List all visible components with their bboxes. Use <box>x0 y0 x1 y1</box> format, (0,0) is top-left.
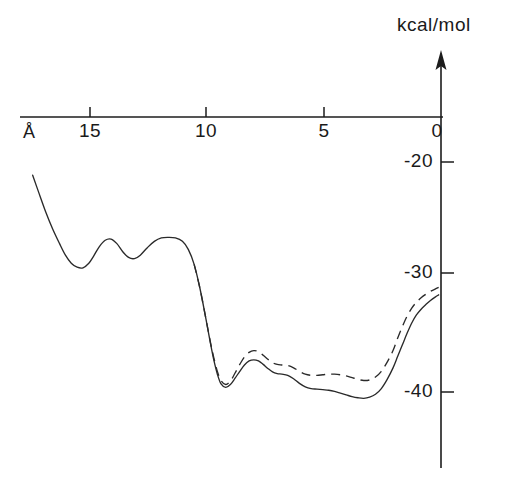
y-tick-label-minus40: -40 <box>383 380 433 402</box>
chart-canvas <box>0 0 510 479</box>
x-axis-unit-label: Å <box>23 122 36 143</box>
y-tick-label-minus30: -30 <box>383 261 433 283</box>
energy-profile-figure: kcal/mol Å 15 10 5 0 -20 -30 -40 <box>0 0 510 479</box>
x-tick-label-15: 15 <box>79 120 101 142</box>
x-tick-label-0: 0 <box>431 120 442 142</box>
x-axis-ticks <box>90 107 324 117</box>
y-axis-unit-label: kcal/mol <box>397 14 471 36</box>
x-tick-label-10: 10 <box>195 120 217 142</box>
series-solid-curve <box>33 175 439 398</box>
x-tick-label-5: 5 <box>318 120 329 142</box>
y-tick-label-minus20: -20 <box>383 150 433 172</box>
y-axis-ticks <box>441 162 454 392</box>
